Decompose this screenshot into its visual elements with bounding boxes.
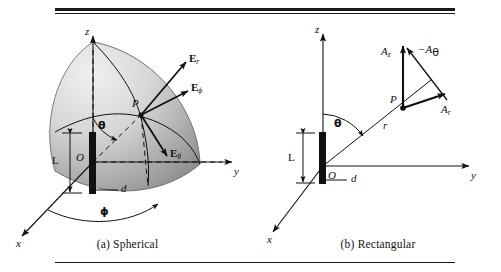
vector-A-r-subscript: r (448, 108, 451, 117)
dipole-element (89, 132, 96, 194)
dipole-length-label: L (288, 152, 295, 163)
phi-angle-label: ϕ (100, 206, 109, 217)
top-rule-thick (55, 8, 455, 11)
point-P-dot (138, 112, 143, 117)
vector-A-r-arrow (403, 94, 445, 108)
vector-E-phi-subscript: ϕ (198, 86, 202, 95)
axis-x-line (22, 162, 93, 236)
spherical-shell (50, 42, 200, 191)
bottom-rule (55, 262, 455, 263)
vector-A-z-label: Az (381, 46, 391, 58)
point-P-label: P (390, 94, 397, 105)
axis-z-label: z (85, 26, 89, 37)
origin-O-label: O (328, 170, 336, 181)
point-P-label: P (132, 98, 139, 109)
theta-angle-label: θ (334, 118, 342, 129)
vector-A-theta-base: −A (418, 43, 432, 55)
vector-A-theta-label: −Aθ (418, 44, 439, 58)
vector-A-r-base: A (441, 103, 448, 115)
dipole-offset-label: d (121, 183, 127, 194)
dipole-length-label: L (52, 155, 59, 166)
caption-spherical: (a) Spherical (0, 238, 255, 250)
axis-y-label: y (234, 166, 239, 177)
spherical-drawing (0, 14, 255, 260)
vector-A-z-subscript: z (388, 50, 391, 59)
radial-label-r: r (383, 120, 387, 131)
vector-E-r-label: Er (189, 53, 199, 65)
dipole-element (319, 132, 326, 184)
theta-angle-label: θ (98, 120, 106, 131)
axis-z-label: z (315, 24, 319, 35)
panel-rectangular: z y x P O L d r θ Az −Aθ Ar (b) Rectangu… (255, 14, 501, 260)
vector-E-phi-label: Eϕ (191, 82, 202, 94)
point-P-dot (400, 105, 406, 111)
theta-arc (323, 114, 363, 136)
origin-O-label: O (76, 152, 84, 163)
axis-x-line (273, 166, 323, 232)
dipole-length-dimension (296, 133, 315, 183)
vector-E-r-subscript: r (196, 57, 199, 66)
panel-spherical: z y x P O L d θ ϕ Er Eϕ Eθ (a) Spherical (0, 14, 255, 260)
caption-rectangular: (b) Rectangular (255, 238, 501, 250)
vector-A-theta-subscript: θ (432, 46, 439, 59)
vector-E-theta-label: Eθ (170, 148, 181, 160)
vector-A-r-label: Ar (441, 104, 451, 116)
rectangular-drawing (255, 14, 501, 260)
axis-y-label: y (471, 170, 476, 181)
vector-A-z-base: A (381, 45, 388, 57)
vector-E-theta-subscript: θ (177, 152, 181, 161)
dipole-offset-label: d (351, 173, 357, 184)
figure-container: z y x P O L d θ ϕ Er Eϕ Eθ (a) Spherical (0, 0, 501, 272)
